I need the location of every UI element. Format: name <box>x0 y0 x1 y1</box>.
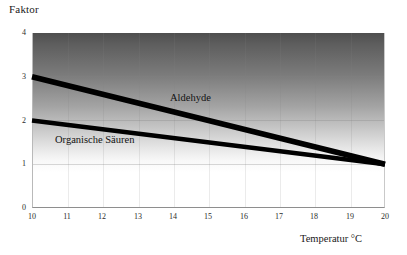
x-tick-label: 14 <box>160 212 186 221</box>
x-tick-label: 17 <box>266 212 292 221</box>
y-tick-label: 4 <box>0 28 26 37</box>
x-tick-label: 12 <box>89 212 115 221</box>
series-label-aldehyde: Aldehyde <box>170 92 211 103</box>
y-tick-label: 2 <box>0 116 26 125</box>
x-tick-label: 13 <box>125 212 151 221</box>
x-tick-label: 19 <box>337 212 363 221</box>
x-tick-label: 18 <box>301 212 327 221</box>
x-tick-label: 11 <box>54 212 80 221</box>
y-tick-label: 1 <box>0 159 26 168</box>
series-label-organische-saeuren: Organische Säuren <box>55 134 134 145</box>
series-lines <box>32 33 385 208</box>
x-tick-label: 10 <box>19 212 45 221</box>
y-axis-title: Faktor <box>9 3 39 15</box>
x-tick-label: 20 <box>372 212 398 221</box>
x-tick-label: 16 <box>231 212 257 221</box>
y-tick-label: 3 <box>0 72 26 81</box>
series-line-aldehyde <box>32 77 385 165</box>
chart-figure: Faktor 4 3 2 1 0 Aldehyde Organische Säu… <box>0 0 407 255</box>
x-tick-label: 15 <box>195 212 221 221</box>
x-axis-title: Temperatur °C <box>300 233 362 244</box>
y-tick-label: 0 <box>0 203 26 212</box>
